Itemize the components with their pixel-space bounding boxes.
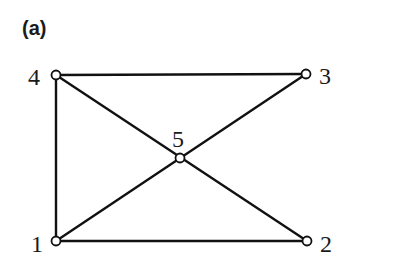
node-1	[52, 237, 61, 246]
graph-diagram: (a) 12345	[0, 0, 398, 266]
node-label-4: 4	[28, 64, 40, 90]
node-label-1: 1	[31, 231, 43, 257]
node-label-2: 2	[320, 231, 332, 257]
node-5	[176, 154, 185, 163]
edge-4-3	[56, 74, 306, 75]
panel-label: (a)	[22, 17, 46, 39]
node-3	[302, 70, 311, 79]
node-2	[303, 237, 312, 246]
node-4	[52, 71, 61, 80]
node-label-3: 3	[319, 63, 331, 89]
node-label-5: 5	[172, 126, 184, 152]
